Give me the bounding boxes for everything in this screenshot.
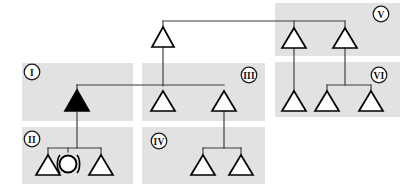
group-label-text-II: II — [28, 135, 36, 145]
group-label-text-I: I — [30, 68, 34, 78]
group-label-III: III — [241, 67, 257, 83]
pedigree-svg: I II III IV V VI — [0, 0, 411, 190]
group-label-II: II — [24, 131, 40, 147]
group-label-text-V: V — [377, 10, 384, 20]
group-label-text-III: III — [243, 71, 255, 81]
group-label-V: V — [373, 6, 389, 22]
group-label-VI: VI — [371, 67, 387, 83]
group-label-text-IV: IV — [154, 137, 165, 147]
group-label-IV: IV — [151, 133, 167, 149]
group-label-text-VI: VI — [374, 71, 385, 81]
group-label-I: I — [24, 64, 40, 80]
node-circle-ii-2[interactable] — [60, 156, 77, 173]
pedigree-diagram: I II III IV V VI — [0, 0, 411, 190]
node-triangle-top[interactable] — [152, 27, 174, 47]
